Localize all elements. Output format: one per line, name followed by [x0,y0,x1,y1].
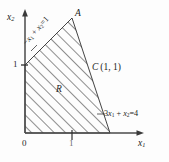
x-axis-tick-label-1: 1 [69,139,74,148]
x-axis-label: x1 [138,139,145,149]
feasible-region-figure: x2 x1 0 1 1 A C (1, 1) R −x1 + x2=1 3x1 … [0,0,169,162]
y-axis-tick-label-1: 1 [13,60,18,69]
constraint-upper-leader [31,45,37,51]
constraint-lower-label: 3x1 + x2=4 [104,110,138,119]
region-label: R [56,85,62,95]
y-axis-arrowhead [22,9,28,17]
y-axis-label: x2 [7,13,14,23]
origin-label: 0 [22,139,27,148]
vertex-label-a: A [75,9,81,19]
vertex-label-c: C (1, 1) [92,63,121,73]
x-axis-arrowhead [137,130,145,135]
